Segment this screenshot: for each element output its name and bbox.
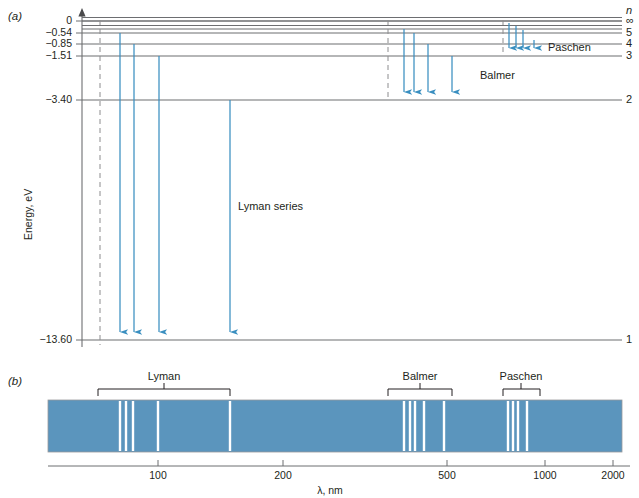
- wavelength-axis-group: [48, 460, 630, 466]
- dashed-reference-lines: [100, 20, 503, 345]
- energy-levels-group: [82, 18, 622, 341]
- wavelength-axis-label: λ, nm: [317, 484, 343, 496]
- wavelength-label-2000: 2000: [601, 469, 624, 481]
- bracket-lyman: [98, 383, 230, 396]
- energy-value-1360: −13.60: [14, 333, 72, 345]
- quantum-number-inf: ∞: [626, 14, 634, 26]
- bracket-balmer: [388, 383, 452, 396]
- balmer-series-label: Balmer: [480, 69, 515, 81]
- spectrum-group-label-paschen: Paschen: [500, 370, 543, 382]
- energy-value-151: −1.51: [20, 49, 72, 61]
- paschen-series-label: Paschen: [548, 41, 591, 53]
- balmer-arrows-group: [404, 29, 452, 92]
- wavelength-tick-marks: [158, 460, 613, 466]
- spectrum-group-label-balmer: Balmer: [403, 370, 438, 382]
- spectrum-group-label-lyman: Lyman: [148, 370, 181, 382]
- quantum-number-1: 1: [626, 333, 632, 345]
- wavelength-label-200: 200: [274, 469, 292, 481]
- bracket-paschen: [503, 383, 540, 396]
- energy-value-0: 0: [20, 14, 72, 26]
- wavelength-label-1000: 1000: [533, 469, 556, 481]
- energy-axis-label: Energy, eV: [22, 189, 34, 240]
- lyman-arrows-group: [120, 33, 230, 332]
- energy-axis-group: [78, 8, 85, 347]
- quantum-number-3: 3: [626, 49, 632, 61]
- panel-b-tag: (b): [8, 375, 22, 387]
- energy-tick-marks: [76, 21, 82, 340]
- figure-svg: [0, 0, 639, 498]
- figure-canvas: (a) (b) Energy, eV 0 −0.54 −0.85 −1.51 −…: [0, 0, 639, 498]
- wavelength-label-100: 100: [149, 469, 167, 481]
- energy-value-340: −3.40: [20, 93, 72, 105]
- wavelength-label-500: 500: [438, 469, 456, 481]
- energy-axis-arrowhead: [78, 8, 85, 17]
- lyman-series-label: Lyman series: [238, 200, 303, 212]
- quantum-number-4: 4: [626, 37, 632, 49]
- energy-value-085: −0.85: [20, 37, 72, 49]
- group-brackets: [98, 383, 540, 396]
- quantum-number-2: 2: [626, 93, 632, 105]
